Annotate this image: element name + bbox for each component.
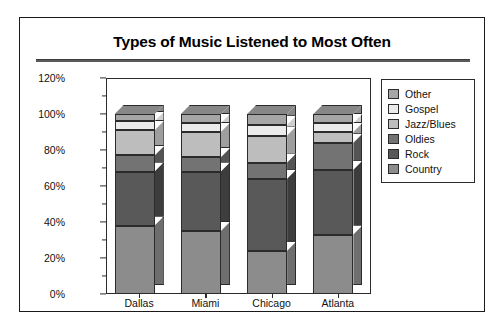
x-axis-tick-label: Chicago — [252, 297, 291, 309]
legend-swatch-icon — [388, 164, 399, 174]
bar-segment-side — [287, 170, 296, 242]
y-axis-minor-tick — [102, 95, 106, 96]
y-axis-tick-mark — [100, 185, 106, 186]
bar-segment-side — [287, 242, 296, 285]
bar-segment-side — [287, 127, 296, 154]
bar-segment-side — [287, 154, 296, 170]
legend-swatch-icon — [388, 104, 399, 114]
legend-swatch-icon — [388, 134, 399, 144]
bar-segment — [313, 123, 353, 132]
bar-segment — [115, 121, 155, 130]
bar-segment — [181, 132, 221, 157]
legend-item-label: Oldies — [405, 133, 435, 145]
legend-swatch-icon — [388, 149, 399, 159]
y-axis-tick-label: 60% — [15, 180, 65, 192]
legend-item-label: Gospel — [405, 103, 438, 115]
bar-segment-side — [155, 217, 164, 285]
bar-segment-side — [221, 163, 230, 222]
bar-segment — [313, 143, 353, 170]
chart-figure: Types of Music Listened to Most Often 0%… — [19, 17, 485, 312]
legend-item[interactable]: Oldies — [388, 131, 469, 146]
bar-segment — [181, 172, 221, 231]
y-axis-tick-mark — [100, 221, 106, 222]
legend-swatch-icon — [388, 89, 399, 99]
bar-segment — [313, 170, 353, 235]
bar-segment-side — [155, 121, 164, 146]
legend-item-label: Jazz/Blues — [405, 118, 456, 130]
legend-item[interactable]: Rock — [388, 146, 469, 161]
legend-item[interactable]: Country — [388, 161, 469, 176]
bar-segment-top — [115, 105, 164, 114]
bar-segment — [115, 226, 155, 294]
bar-segment-side — [221, 222, 230, 285]
bar-segment — [313, 235, 353, 294]
bar-segment — [247, 114, 287, 125]
legend-item[interactable]: Other — [388, 86, 469, 101]
bar-segment-side — [221, 123, 230, 148]
bar-segment — [181, 231, 221, 294]
legend-item-label: Rock — [405, 148, 429, 160]
y-axis-tick-label: 80% — [15, 144, 65, 156]
bar-segment — [115, 114, 155, 121]
x-axis-tick-label: Dallas — [125, 297, 154, 309]
bar-segment-side — [353, 161, 362, 226]
bar-segment-side — [155, 112, 164, 121]
y-axis-minor-tick — [102, 167, 106, 168]
bar-segment — [247, 179, 287, 251]
bar-segment-side — [155, 163, 164, 217]
bar-segment-side — [353, 123, 362, 134]
bar-segment — [115, 155, 155, 171]
y-axis-tick-mark — [100, 293, 106, 294]
bar-segment — [115, 172, 155, 226]
bar-segment-side — [353, 226, 362, 285]
bar-segment — [181, 123, 221, 132]
bar-segment-side — [155, 146, 164, 162]
y-axis-tick-label: 20% — [15, 252, 65, 264]
chart-legend: OtherGospelJazz/BluesOldiesRockCountry — [381, 79, 475, 183]
legend-swatch-icon — [388, 119, 399, 129]
bar-segment-side — [353, 114, 362, 123]
legend-item[interactable]: Gospel — [388, 101, 469, 116]
y-axis-tick-mark — [100, 149, 106, 150]
bar-segment-side — [287, 116, 296, 127]
bar-segment-side — [353, 134, 362, 161]
y-axis-tick-mark — [100, 77, 106, 78]
bar-segment — [181, 157, 221, 171]
legend-item-label: Country — [405, 163, 442, 175]
bar-segment — [247, 251, 287, 294]
bar-segment — [247, 125, 287, 136]
y-axis-tick-mark — [100, 113, 106, 114]
bar-segment — [247, 163, 287, 179]
y-axis-tick-label: 40% — [15, 216, 65, 228]
y-axis-tick-label: 100% — [15, 108, 65, 120]
x-axis-tick-label: Atlanta — [322, 297, 355, 309]
x-axis-tick-label: Miami — [191, 297, 219, 309]
bar-segment-side — [221, 114, 230, 123]
bar-segment — [115, 130, 155, 155]
y-axis-minor-tick — [102, 131, 106, 132]
bar-segment — [313, 114, 353, 123]
y-axis-tick-label: 120% — [15, 72, 65, 84]
bar-segment — [313, 132, 353, 143]
legend-item-label: Other — [405, 88, 431, 100]
bar-segment — [181, 114, 221, 123]
y-axis-minor-tick — [102, 239, 106, 240]
bar-segment — [247, 136, 287, 163]
legend-item[interactable]: Jazz/Blues — [388, 116, 469, 131]
y-axis-tick-mark — [100, 257, 106, 258]
y-axis-minor-tick — [102, 275, 106, 276]
y-axis-tick-label: 0% — [15, 288, 65, 300]
bar-segment-side — [221, 148, 230, 162]
y-axis-minor-tick — [102, 203, 106, 204]
